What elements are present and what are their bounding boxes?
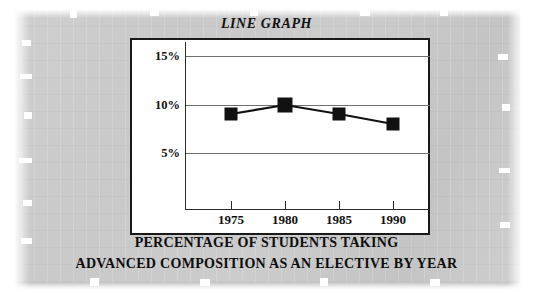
torn-notch — [499, 168, 510, 173]
chart-title: LINE GRAPH — [0, 16, 533, 32]
torn-notch — [90, 278, 99, 286]
data-line-series-1 — [231, 105, 393, 124]
torn-notch — [360, 9, 370, 16]
torn-notch — [500, 222, 510, 228]
data-point-1990 — [387, 118, 400, 131]
torn-edge-right — [507, 0, 533, 298]
torn-notch — [200, 279, 210, 286]
torn-notch — [320, 278, 328, 286]
torn-notch — [23, 200, 32, 206]
torn-notch — [20, 74, 32, 79]
data-point-1985 — [333, 108, 346, 121]
chart-plot-frame: 15% 10% 5% 1975 1980 1985 1990 — [130, 38, 430, 235]
data-series-layer — [132, 40, 432, 237]
torn-notch — [22, 40, 31, 46]
torn-notch — [502, 104, 510, 111]
torn-notch — [498, 54, 508, 60]
torn-notch — [430, 279, 440, 286]
caption-line-2: ADVANCED COMPOSITION AS AN ELECTIVE BY Y… — [0, 256, 533, 272]
torn-notch — [24, 112, 32, 119]
data-point-1975 — [225, 108, 238, 121]
torn-edge-bottom — [0, 282, 533, 298]
caption-line-1: PERCENTAGE OF STUDENTS TAKING — [0, 235, 533, 251]
torn-notch — [19, 158, 32, 163]
chart-plot-area: 15% 10% 5% 1975 1980 1985 1990 — [132, 40, 432, 237]
figure-root: LINE GRAPH 15% 10% 5% 1975 1980 1985 199… — [0, 0, 533, 298]
data-point-1980 — [278, 98, 293, 113]
torn-notch — [150, 9, 159, 16]
